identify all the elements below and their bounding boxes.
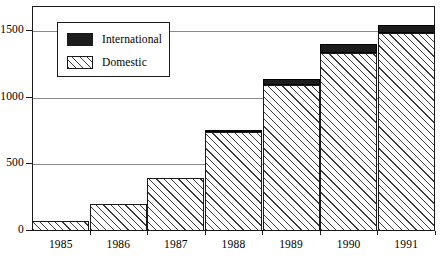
bar-stack (320, 6, 377, 231)
x-axis-tick-label: 1991 (382, 238, 430, 250)
x-axis-tick-mark (205, 231, 206, 235)
x-axis-tick-label: 1985 (37, 238, 85, 250)
x-axis-tick-label: 1989 (267, 238, 315, 250)
x-axis-tick-mark (320, 231, 321, 235)
bar-group (205, 6, 262, 231)
x-axis-tick-label: 1990 (325, 238, 373, 250)
x-axis-tick-mark (147, 231, 148, 235)
bar-segment-international (263, 79, 320, 85)
x-axis-tick-mark (262, 231, 263, 235)
y-axis-tick-label: 1000 (0, 91, 24, 102)
bar-segment-domestic (205, 132, 262, 231)
legend-swatch-domestic-icon (67, 56, 93, 69)
bar-segment-domestic (378, 33, 435, 231)
legend-item-domestic: Domestic (67, 54, 147, 70)
bar-segment-domestic (147, 178, 204, 231)
x-axis-tick-label: 1988 (210, 238, 258, 250)
bar-segment-domestic (320, 53, 377, 231)
y-axis-tick-label: 1500 (0, 24, 24, 35)
x-axis-tick-label: 1986 (94, 238, 142, 250)
bar-segment-international (378, 25, 435, 33)
bar-stack (378, 6, 435, 231)
y-axis-tick-label: 500 (0, 157, 24, 168)
legend-swatch-international-icon (67, 33, 93, 46)
bar-group (320, 6, 377, 231)
bar-segment-domestic (90, 204, 147, 231)
x-axis-tick-label: 1987 (152, 238, 200, 250)
bar-segment-domestic (263, 85, 320, 231)
bar-stack (205, 6, 262, 231)
x-axis-tick-mark (90, 231, 91, 235)
bar-segment-international (205, 130, 262, 132)
legend-label-domestic: Domestic (102, 56, 147, 68)
bar-group (378, 6, 435, 231)
y-axis-tick-label: 0 (0, 224, 24, 235)
bar-group (263, 6, 320, 231)
chart-legend: International Domestic (57, 22, 170, 77)
bar-segment-international (320, 44, 377, 53)
bar-stack (263, 6, 320, 231)
stacked-bar-chart: 150010005000 198519861987198819891990199… (0, 0, 445, 258)
x-axis-tick-mark (377, 231, 378, 235)
x-axis-tick-mark (435, 231, 436, 235)
legend-label-international: International (102, 33, 162, 45)
legend-item-international: International (67, 31, 162, 47)
bar-segment-domestic (32, 221, 89, 231)
